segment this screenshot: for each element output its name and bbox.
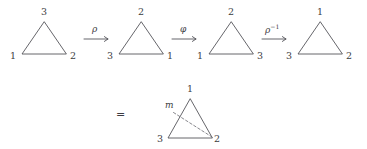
triangle-result-bottom-right-label: 2 [214,134,220,144]
triangle-2-shape [119,22,163,54]
triangle-4-apex-label: 1 [317,7,323,17]
triangle-1-apex-label: 3 [41,7,47,17]
triangle-4-bottom-left-label: 3 [286,51,292,61]
mirror-axis-line [174,113,213,138]
triangle-result-bottom-left-label: 3 [157,134,163,144]
mirror-axis-label: m [165,101,174,110]
arrow-rho-symbol: ρ [92,24,97,34]
triangle-3-apex-label: 2 [228,7,234,17]
triangle-3-shape [209,22,253,54]
triangle-1-bottom-left-label: 1 [10,51,16,61]
triangle-2-apex-label: 2 [138,7,144,17]
arrow-rho-shape [84,37,108,42]
triangle-2-bottom-right-label: 1 [167,51,173,61]
triangle-4-bottom-right-label: 2 [346,51,352,61]
triangle-3-bottom-right-label: 3 [257,51,263,61]
arrow-rho-inverse-label: ρ−1 [265,24,279,35]
arrow-rho-inverse-exponent: −1 [270,23,279,30]
equals-sign: = [116,109,125,120]
arrow-rho-inverse-shape [262,37,286,42]
figure-vector-layer [0,0,367,149]
triangle-2-bottom-left-label: 3 [107,51,113,61]
triangle-3-bottom-left-label: 1 [197,51,203,61]
arrow-phi-label: φ [180,25,186,34]
arrow-phi-shape [172,37,196,42]
triangle-result-shape [168,99,212,138]
triangle-4-shape [298,22,342,54]
arrow-rho-label: ρ [92,25,97,34]
triangle-1-bottom-right-label: 2 [70,51,76,61]
figure-canvas: 3 1 2 2 3 1 2 1 3 1 3 2 ρ φ ρ−1 = 1 3 2 … [0,0,367,149]
triangle-result-apex-label: 1 [187,84,193,94]
triangle-1-shape [22,22,66,54]
arrow-phi-symbol: φ [180,24,186,34]
